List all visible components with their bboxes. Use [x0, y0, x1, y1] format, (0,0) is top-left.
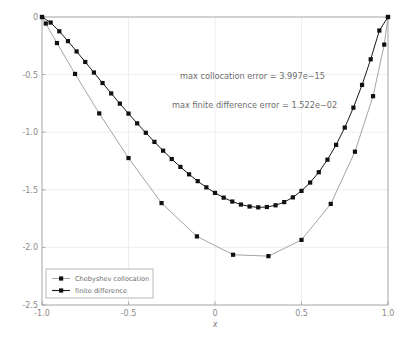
y-tick-label: -2.0 — [22, 243, 38, 252]
y-tick-label: -1.5 — [22, 186, 38, 195]
annotation-collocation-error: max collocation error = 3.997e−15 — [180, 71, 325, 81]
data-point-marker — [299, 238, 303, 242]
x-tick-label: 1.0 — [382, 309, 395, 318]
data-point-marker — [386, 15, 390, 19]
y-tick-label: -1.0 — [22, 128, 38, 137]
data-point-marker — [49, 20, 53, 24]
data-point-marker — [152, 140, 156, 144]
data-point-marker — [353, 150, 357, 154]
data-point-marker — [230, 199, 234, 203]
data-point-marker — [266, 254, 270, 258]
data-point-marker — [351, 106, 355, 110]
data-point-marker — [55, 41, 59, 45]
data-point-marker — [195, 234, 199, 238]
data-point-marker — [161, 149, 165, 153]
data-point-marker — [178, 165, 182, 169]
data-point-marker — [334, 143, 338, 147]
data-point-marker — [83, 60, 87, 64]
legend-label-finite-difference: finite difference — [75, 287, 127, 295]
data-point-marker — [135, 121, 139, 125]
x-tick-label: 0 — [212, 309, 217, 318]
x-tick-label: -0.5 — [121, 309, 137, 318]
data-point-marker — [343, 125, 347, 129]
legend-marker-chebyshev-collocation — [59, 276, 63, 280]
data-point-marker — [126, 111, 130, 115]
tick-labels-x: -1.0-0.500.51.0 — [34, 309, 394, 318]
data-point-marker — [57, 29, 61, 33]
data-point-marker — [222, 196, 226, 200]
legend-label-chebyshev-collocation: Chebyshev collocation — [75, 275, 149, 283]
y-tick-label: -2.5 — [22, 301, 38, 310]
x-tick-label: 0.5 — [295, 309, 308, 318]
legend: Chebyshev collocation finite difference — [46, 269, 153, 298]
data-point-marker — [100, 81, 104, 85]
tick-labels-y: 0-0.5-1.0-1.5-2.0-2.5 — [22, 13, 38, 310]
data-point-marker — [109, 91, 113, 95]
data-point-marker — [329, 202, 333, 206]
data-point-marker — [248, 204, 252, 208]
data-point-marker — [256, 205, 260, 209]
data-point-marker — [73, 72, 77, 76]
data-point-marker — [92, 70, 96, 74]
x-tick-label: -1.0 — [34, 309, 50, 318]
data-point-marker — [44, 21, 48, 25]
data-point-marker — [360, 83, 364, 87]
data-point-marker — [118, 102, 122, 106]
data-point-marker — [144, 131, 148, 135]
data-point-marker — [325, 158, 329, 162]
data-point-marker — [204, 185, 208, 189]
data-point-marker — [66, 39, 70, 43]
data-point-marker — [213, 191, 217, 195]
data-point-marker — [382, 43, 386, 47]
x-axis-title: x — [212, 320, 218, 329]
data-point-marker — [371, 94, 375, 98]
data-point-marker — [40, 15, 44, 19]
data-point-marker — [126, 156, 130, 160]
data-point-marker — [187, 172, 191, 176]
y-tick-label: -0.5 — [22, 71, 38, 80]
data-point-marker — [273, 203, 277, 207]
data-point-marker — [239, 202, 243, 206]
data-point-marker — [75, 49, 79, 53]
data-point-marker — [299, 189, 303, 193]
data-point-marker — [196, 179, 200, 183]
data-point-marker — [159, 201, 163, 205]
data-point-marker — [317, 170, 321, 174]
data-point-marker — [377, 28, 381, 32]
data-point-marker — [282, 200, 286, 204]
annotation-finite-difference-error: max finite difference error = 1.522e−02 — [172, 100, 337, 110]
data-point-marker — [308, 180, 312, 184]
data-point-marker — [170, 157, 174, 161]
chart-figure: -1.0-0.500.51.0 0-0.5-1.0-1.5-2.0-2.5 x … — [0, 0, 412, 343]
legend-marker-finite-difference — [59, 288, 63, 292]
data-point-marker — [231, 253, 235, 257]
y-tick-label: 0 — [33, 13, 38, 22]
data-point-marker — [291, 195, 295, 199]
data-point-marker — [265, 205, 269, 209]
data-point-marker — [97, 111, 101, 115]
plot-canvas: -1.0-0.500.51.0 0-0.5-1.0-1.5-2.0-2.5 x … — [0, 0, 412, 343]
data-point-marker — [369, 57, 373, 61]
